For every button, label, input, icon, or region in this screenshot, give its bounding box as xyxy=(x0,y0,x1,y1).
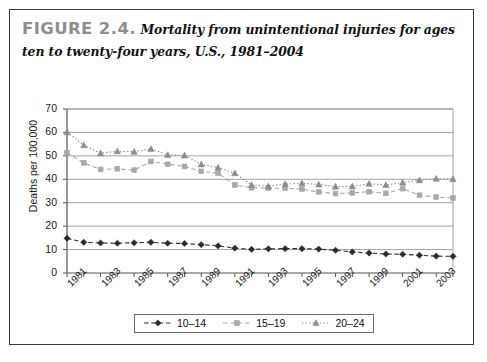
legend-item-label: 15–19 xyxy=(256,317,285,329)
y-axis-tick-label: 30 xyxy=(31,196,57,208)
y-axis-tick-label: 50 xyxy=(31,149,57,161)
figure-frame: FIGURE 2.4. Mortality from unintentional… xyxy=(9,9,474,345)
legend-item-label: 20–24 xyxy=(335,317,364,329)
chart-plot-area: Deaths per 100,000 010203040506070198119… xyxy=(10,10,475,346)
y-axis-tick-label: 0 xyxy=(31,266,57,278)
y-axis-tick-label: 40 xyxy=(31,172,57,184)
legend-item-15-19[interactable]: 15–19 xyxy=(222,317,285,329)
y-axis-title: Deaths per 100,000 xyxy=(27,96,39,236)
chart-legend: 10–1415–1920–24 xyxy=(134,314,374,333)
line-chart-svg xyxy=(10,10,475,346)
legend-item-label: 10–14 xyxy=(177,317,206,329)
legend-item-20-24[interactable]: 20–24 xyxy=(301,317,364,329)
y-axis-tick-label: 20 xyxy=(31,219,57,231)
y-axis-tick-label: 60 xyxy=(31,125,57,137)
legend-swatch-icon xyxy=(222,318,252,328)
y-axis-tick-label: 70 xyxy=(31,102,57,114)
y-axis-tick-label: 10 xyxy=(31,243,57,255)
legend-item-10-14[interactable]: 10–14 xyxy=(143,317,206,329)
legend-swatch-icon xyxy=(301,318,331,328)
legend-swatch-icon xyxy=(143,318,173,328)
